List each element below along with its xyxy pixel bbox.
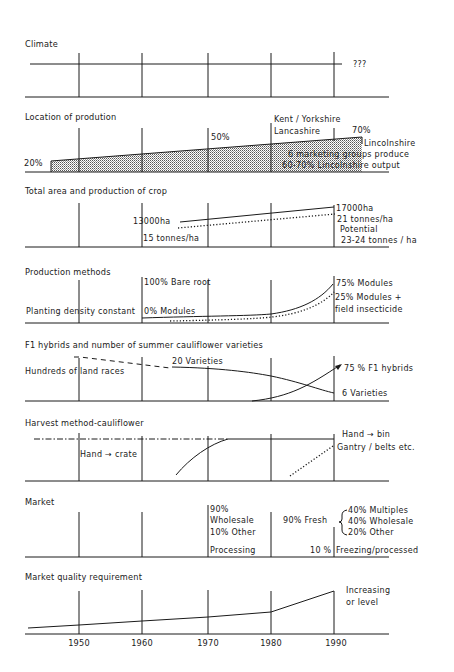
label-10pct: 10 % — [310, 546, 332, 555]
label-75pct-f1: 75 % F1 hybrids — [344, 364, 413, 373]
panel-title: Total area and production of crop — [24, 186, 167, 196]
label-potential: Potential — [340, 225, 378, 234]
label-processing: Processing — [210, 546, 256, 555]
location-note-1: 6 marketing groups produce — [288, 150, 409, 159]
label-40pct-multiples: 40% Multiples — [348, 506, 408, 515]
label-17000ha: 17000ha — [336, 204, 374, 213]
label-50pct: 50% — [211, 132, 230, 142]
label-hand-bin: Hand → bin — [342, 430, 390, 439]
tick-1960: 1960 — [131, 638, 153, 648]
arrow-head-icon — [335, 364, 342, 370]
yield-line — [178, 214, 335, 228]
panel-title: Production methods — [25, 267, 111, 277]
label-13000ha: 13000ha — [133, 217, 171, 226]
panel-quality: Market quality requirement Increasing or… — [25, 572, 390, 634]
label-10pct-other: 10% Other — [210, 528, 256, 537]
label-15-tonnes: 15 tonnes/ha — [143, 234, 199, 243]
label-wholesale: Wholesale — [210, 516, 254, 525]
panel-title: Market quality requirement — [25, 572, 143, 582]
panel-area: Total area and production of crop 13000h… — [24, 186, 417, 247]
label-40pct-wholesale: 40% Wholesale — [348, 517, 413, 526]
panel-title: Harvest method-cauliflower — [25, 418, 144, 428]
panel-market: Market 90% Wholesale 10% Other Processin… — [25, 497, 418, 557]
climate-unknown-note: ??? — [353, 60, 367, 69]
panel-location: Location of prodution 20% 50% Kent / Yor… — [24, 112, 415, 172]
tick-1970: 1970 — [197, 638, 219, 648]
label-20pct-other: 20% Other — [348, 528, 394, 537]
diagram-canvas: Climate ??? Location of prodution 20% 50… — [0, 0, 454, 672]
location-note-2: 60-70% Lincolnshire output — [282, 161, 400, 170]
tick-1950: 1950 — [68, 638, 90, 648]
panel-harvest: Harvest method-cauliflower Hand → crate … — [25, 418, 415, 481]
tick-1980: 1980 — [260, 638, 282, 648]
panel-title: Climate — [25, 39, 58, 49]
year-axis: 1950 1960 1970 1980 1990 — [68, 638, 347, 648]
label-0pct-modules: 0% Modules — [144, 307, 196, 316]
label-increasing: Increasing — [346, 586, 390, 595]
label-lincolnshire: Lincolnshire — [364, 139, 415, 148]
panel-hybrids: F1 hybrids and number of summer cauliflo… — [25, 340, 413, 401]
panel-title: F1 hybrids and number of summer cauliflo… — [25, 340, 263, 350]
label-bare-root: 100% Bare root — [144, 278, 211, 287]
label-freezing: Freezing/processed — [336, 546, 418, 555]
label-25pct-modules: 25% Modules + — [335, 293, 402, 302]
label-6-varieties: 6 Varieties — [342, 389, 388, 398]
label-90pct: 90% — [210, 505, 229, 514]
label-hand-crate: Hand → crate — [80, 450, 137, 459]
label-lancashire: Lancashire — [274, 127, 320, 136]
label-or-level: or level — [346, 598, 378, 607]
label-kent-yorkshire: Kent / Yorkshire — [274, 115, 341, 124]
label-20pct: 20% — [24, 158, 43, 168]
label-21-tonnes: 21 tonnes/ha — [337, 215, 393, 224]
f1-hybrids-curve — [252, 365, 340, 401]
panel-methods: Production methods 100% Bare root Planti… — [25, 267, 403, 323]
label-density-constant: Planting density constant — [26, 307, 135, 316]
label-90pct-fresh: 90% Fresh — [283, 516, 327, 525]
label-land-races: Hundreds of land races — [25, 367, 124, 376]
tick-1990: 1990 — [325, 638, 347, 648]
label-75pct-modules: 75% Modules — [336, 279, 393, 288]
brace-icon — [339, 510, 347, 535]
label-gantry: Gantry / belts etc. — [337, 443, 415, 452]
varieties-curve — [172, 367, 334, 393]
panel-title: Market — [25, 497, 55, 507]
panel-climate: Climate ??? — [25, 39, 389, 97]
quality-line — [28, 591, 334, 628]
label-20-varieties: 20 Varieties — [172, 357, 223, 366]
hand-bin-curve — [176, 439, 334, 475]
gantry-line — [290, 446, 333, 476]
panel-title: Location of prodution — [25, 112, 116, 122]
label-field-insecticide: field insecticide — [335, 305, 403, 314]
label-70pct: 70% — [352, 125, 371, 135]
label-potential-yield: 23-24 tonnes / ha — [341, 236, 417, 245]
area-line — [180, 207, 334, 222]
